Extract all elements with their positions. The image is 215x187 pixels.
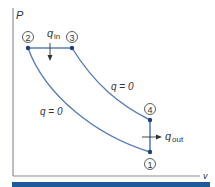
state-label-3: 3 (67, 32, 78, 43)
state-label-4: 4 (145, 104, 156, 115)
state-point-3 (70, 46, 74, 50)
y-axis-label: P (16, 9, 24, 21)
x-axis-label: v (203, 171, 208, 181)
q-in-label: q in (47, 27, 60, 41)
svg-text:3: 3 (69, 33, 74, 43)
state-label-2: 2 (23, 32, 34, 43)
bottom-bar (12, 182, 210, 187)
state-point-1 (148, 150, 152, 154)
q-out-label: q out (165, 130, 184, 144)
svg-text:4: 4 (147, 105, 152, 115)
state-label-1: 1 (145, 159, 156, 170)
svg-text:1: 1 (147, 160, 152, 170)
svg-text:out: out (172, 135, 184, 144)
q-zero-expansion-label: q = 0 (111, 81, 134, 92)
state-point-4 (148, 118, 152, 122)
q-out-arrow-icon (142, 135, 162, 140)
svg-text:q: q (165, 130, 172, 142)
q-in-arrow-icon (48, 43, 53, 61)
svg-text:q: q (47, 27, 54, 39)
state-point-2 (26, 46, 30, 50)
q-zero-compression-label: q = 0 (40, 106, 63, 117)
svg-text:2: 2 (25, 33, 30, 43)
svg-text:in: in (54, 32, 60, 41)
process-1-2 (28, 48, 150, 152)
pv-diagram: P v 2 3 4 1 q in q out (0, 0, 215, 187)
